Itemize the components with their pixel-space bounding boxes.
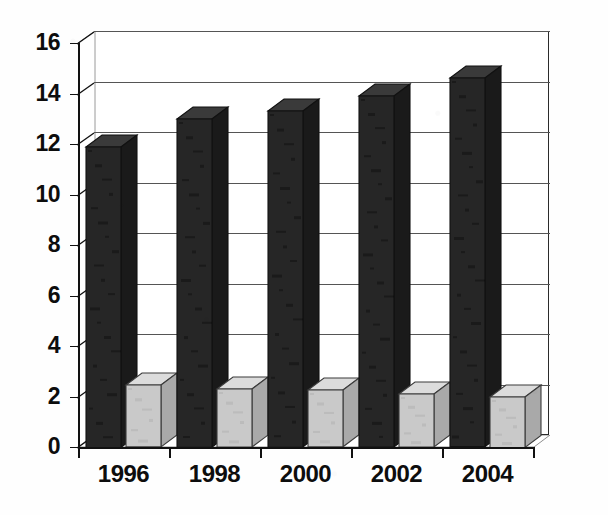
- bar-series-light-2002: [399, 382, 452, 449]
- x-tick-mark-0: [78, 447, 80, 458]
- gridline-16: [94, 31, 550, 32]
- y-axis-label-6: 6: [14, 284, 60, 307]
- x-tick-mark-4: [442, 447, 444, 458]
- bar-series-light-2000: [308, 378, 361, 449]
- y-axis-label-12: 12: [14, 132, 60, 155]
- x-axis-label-2004: 2004: [433, 461, 543, 487]
- y-axis-label-0: 0: [14, 435, 60, 458]
- x-tick-mark-2: [260, 447, 262, 458]
- x-tick-mark-5: [533, 447, 535, 458]
- bar-series-light-1998: [217, 377, 270, 449]
- bar-series-light-2004: [490, 385, 543, 450]
- y-axis-label-2: 2: [14, 385, 60, 408]
- y-axis-label-16: 16: [14, 31, 60, 54]
- bar-chart: 1614121086420 19961998200020022004: [0, 0, 608, 515]
- bar-series-light-1996: [126, 373, 179, 449]
- y-axis-label-14: 14: [14, 82, 60, 105]
- x-tick-mark-3: [351, 447, 353, 458]
- y-axis-label-4: 4: [14, 334, 60, 357]
- plot-area: 1614121086420 19961998200020022004: [0, 0, 608, 515]
- x-axis-line: [78, 447, 534, 449]
- y-axis-label-8: 8: [14, 233, 60, 256]
- y-axis-label-10: 10: [14, 183, 60, 206]
- x-tick-mark-1: [169, 447, 171, 458]
- y-axis-line: [78, 43, 80, 448]
